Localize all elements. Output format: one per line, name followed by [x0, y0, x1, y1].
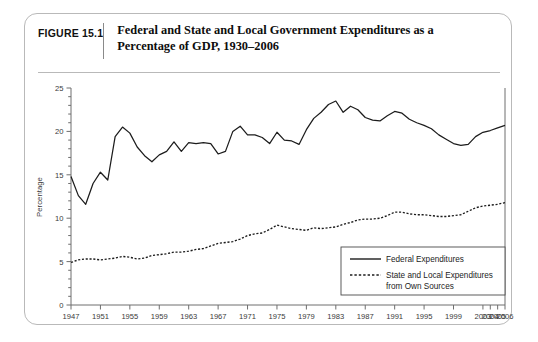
- figure-title: Federal and State and Local Government E…: [104, 22, 447, 54]
- figure-header: FIGURE 15.1 Federal and State and Local …: [25, 22, 511, 70]
- header-rule: [38, 72, 500, 73]
- figure-number-label: FIGURE 15.1: [25, 22, 103, 39]
- figure-title-line-1: Federal and State and Local Government E…: [117, 23, 433, 37]
- figure-card: FIGURE 15.1 Federal and State and Local …: [24, 13, 512, 325]
- figure-title-line-2: Percentage of GDP, 1930–2006: [117, 39, 279, 53]
